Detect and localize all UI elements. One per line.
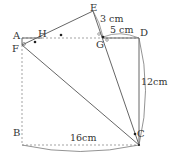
label-d: D	[140, 27, 148, 38]
label-e: E	[90, 2, 97, 13]
label-h: H	[38, 28, 47, 39]
measure-gd: 5 cm	[110, 24, 133, 35]
arc-bc	[22, 145, 139, 152]
angle-mark-g2	[106, 39, 109, 42]
label-f: F	[12, 43, 19, 54]
measure-dc: 12cm	[141, 76, 167, 87]
geometry-diagram: A F H E G D B C 3 cm 5 cm 12cm 16cm	[0, 0, 172, 154]
angle-mark-c	[134, 133, 137, 136]
angle-mark-g1	[98, 33, 101, 36]
angle-mark-h	[34, 41, 37, 44]
label-c: C	[137, 128, 145, 139]
label-a: A	[12, 30, 21, 41]
label-b: B	[13, 127, 20, 138]
measure-eg: 3 cm	[100, 13, 123, 24]
segment-fe	[22, 11, 93, 45]
measure-bc: 16cm	[70, 132, 96, 143]
label-g: G	[96, 39, 104, 50]
point-c	[138, 144, 140, 146]
point-g	[102, 36, 105, 39]
angle-mark-h2	[60, 34, 63, 37]
